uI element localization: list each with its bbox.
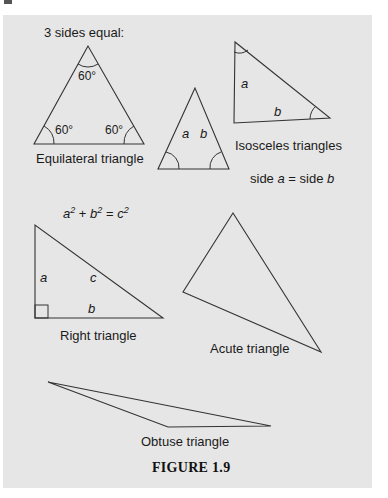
large-isosceles-side-b: b — [274, 104, 281, 119]
equilateral-apex-angle-arc — [78, 64, 98, 67]
right-triangle — [35, 225, 163, 318]
triangle-diagram: 3 sides equal: 60° 60° 60° Equilateral t… — [0, 0, 388, 498]
equilateral-right-angle-arc — [124, 126, 134, 144]
small-isosceles-side-b: b — [200, 126, 207, 141]
right-triangle-side-a: a — [40, 270, 47, 285]
large-isosceles-side-a: a — [241, 76, 248, 91]
large-isosceles-right-arc — [310, 106, 316, 119]
obtuse-triangle — [48, 382, 271, 427]
large-isosceles-triangle — [234, 42, 330, 123]
small-isosceles-group: a b — [158, 88, 229, 169]
obtuse-triangle-name: Obtuse triangle — [141, 434, 229, 449]
equilateral-triangle — [34, 46, 144, 144]
small-isosceles-triangle — [158, 88, 229, 169]
figure-caption: FIGURE 1.9 — [152, 460, 230, 475]
obtuse-triangle-group: Obtuse triangle — [48, 382, 271, 449]
right-triangle-side-c: c — [90, 270, 97, 285]
equilateral-left-angle-arc — [44, 126, 54, 144]
right-angle-marker — [35, 305, 48, 318]
acute-triangle-group: Acute triangle — [183, 213, 321, 356]
equilateral-apex-angle: 60° — [78, 69, 96, 83]
small-isosceles-side-a: a — [182, 126, 189, 141]
equilateral-left-angle: 60° — [55, 123, 73, 137]
right-triangle-name: Right triangle — [60, 328, 137, 343]
small-isosceles-left-arc — [166, 152, 179, 169]
small-isosceles-right-arc — [210, 152, 221, 169]
equilateral-heading: 3 sides equal: — [44, 25, 124, 40]
isosceles-name: Isosceles triangles — [235, 138, 342, 153]
acute-triangle — [183, 213, 321, 352]
isosceles-rule: side a = side b — [250, 171, 334, 186]
pythagorean-formula: a2 + b2 = c2 — [63, 205, 129, 221]
equilateral-name: Equilateral triangle — [36, 151, 144, 166]
large-isosceles-group: a b Isosceles triangles side a = side b — [234, 42, 342, 186]
equilateral-group: 3 sides equal: 60° 60° 60° Equilateral t… — [34, 25, 144, 166]
acute-triangle-name: Acute triangle — [210, 341, 290, 356]
right-triangle-side-b: b — [88, 301, 95, 316]
right-triangle-group: a2 + b2 = c2 a c b Right triangle — [35, 205, 163, 343]
equilateral-right-angle: 60° — [105, 123, 123, 137]
